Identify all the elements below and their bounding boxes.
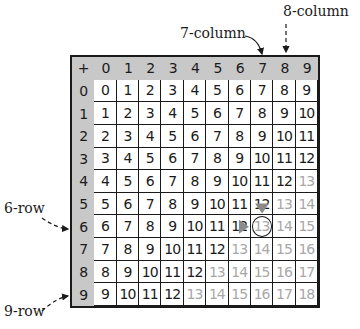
arrow-7-column-icon (245, 36, 262, 54)
arrow-6-row-icon (42, 218, 68, 229)
arrow-9-row-icon (42, 296, 68, 311)
annotation-arrows (0, 0, 360, 329)
